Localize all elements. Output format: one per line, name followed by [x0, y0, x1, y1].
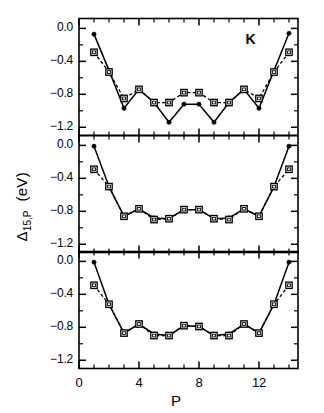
series-line-dashed-squares-bottom	[94, 285, 289, 335]
data-point	[181, 206, 187, 212]
y-tick-label: −0.4	[33, 53, 73, 67]
data-point	[91, 166, 97, 172]
data-point	[241, 86, 247, 92]
figure: Δ15,P(eV) P 0.0−0.4−0.8−1.2K0.0−0.4−0.8−…	[0, 0, 324, 413]
data-point	[211, 216, 217, 222]
y-tick-label: 0.0	[33, 137, 73, 151]
y-tick-label: −0.4	[33, 286, 73, 300]
data-point	[151, 99, 157, 105]
data-point	[151, 216, 157, 222]
data-point	[121, 213, 127, 219]
data-point	[106, 69, 112, 75]
data-point	[181, 89, 187, 95]
data-point	[287, 31, 291, 35]
data-point	[182, 102, 186, 106]
data-point	[196, 323, 202, 329]
data-point	[256, 330, 262, 336]
data-point	[121, 95, 127, 101]
y-tick-label: −1.2	[33, 119, 73, 133]
y-tick-label: −1.2	[33, 236, 73, 250]
data-point	[211, 99, 217, 105]
data-point	[256, 213, 262, 219]
data-point	[196, 206, 202, 212]
y-tick-label: −0.8	[33, 319, 73, 333]
data-point	[181, 322, 187, 328]
panel-annotation-top: K	[246, 31, 256, 47]
data-point	[122, 106, 126, 110]
data-point	[92, 260, 96, 264]
data-point	[91, 49, 97, 55]
x-tick-label: 4	[127, 375, 151, 390]
data-point	[271, 183, 277, 189]
data-point	[226, 332, 232, 338]
data-point	[241, 321, 247, 327]
data-point	[271, 301, 277, 307]
data-point	[287, 144, 291, 148]
data-point	[151, 332, 157, 338]
y-tick-label: −0.8	[33, 86, 73, 100]
data-point	[166, 99, 172, 105]
data-point	[106, 301, 112, 307]
data-point	[226, 216, 232, 222]
data-point	[286, 49, 292, 55]
y-tick-label: 0.0	[33, 20, 73, 34]
data-point	[106, 183, 112, 189]
data-point	[91, 282, 97, 288]
y-tick-label: −1.2	[33, 352, 73, 366]
data-point	[197, 102, 201, 106]
panel-frame-middle	[79, 136, 298, 253]
data-point	[92, 144, 96, 148]
data-point	[226, 99, 232, 105]
data-point	[166, 332, 172, 338]
data-point	[136, 321, 142, 327]
data-point	[136, 206, 142, 212]
x-tick-label: 8	[187, 375, 211, 390]
data-point	[136, 86, 142, 92]
series-line-dashed-squares-middle	[94, 169, 289, 219]
data-point	[211, 332, 217, 338]
data-point	[92, 32, 96, 36]
series-line-solid-circles-bottom	[94, 262, 289, 335]
data-point	[287, 260, 291, 264]
data-point	[241, 206, 247, 212]
data-point	[196, 89, 202, 95]
data-point	[286, 282, 292, 288]
data-point	[121, 330, 127, 336]
data-point	[256, 95, 262, 101]
data-point	[257, 106, 261, 110]
series-line-solid-circles-middle	[94, 146, 289, 219]
y-tick-label: −0.4	[33, 170, 73, 184]
data-point	[167, 120, 171, 124]
x-tick-label: 0	[67, 375, 91, 390]
y-tick-label: 0.0	[33, 253, 73, 267]
y-tick-label: −0.8	[33, 203, 73, 217]
x-tick-label: 12	[247, 375, 271, 390]
data-point	[166, 216, 172, 222]
data-point	[212, 120, 216, 124]
data-point	[271, 69, 277, 75]
data-point	[286, 166, 292, 172]
